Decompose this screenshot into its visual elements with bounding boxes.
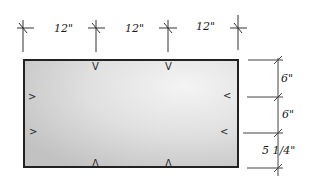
left-marker-1: >: [28, 91, 36, 102]
panel-drawing: 12" 12" 12" V V Λ Λ > > < < 6" 6" 5: [0, 0, 315, 184]
right-dimension-label-2: 6": [282, 108, 294, 121]
right-dimension-label-3: 5 1/4": [262, 144, 295, 157]
top-marker-1: V: [92, 61, 99, 72]
top-dimension-label-3: 12": [196, 20, 215, 33]
right-tick-3: [243, 129, 283, 137]
top-tick-2: [88, 20, 105, 52]
right-dimension-line: [243, 56, 283, 176]
top-dimension-label-1: 12": [54, 22, 73, 35]
top-tick-3: [159, 20, 177, 52]
bottom-marker-2: Λ: [165, 158, 172, 169]
top-tick-4: [230, 15, 247, 50]
right-marker-1: <: [223, 90, 231, 101]
right-marker-2: <: [220, 126, 228, 137]
top-tick-1: [17, 20, 34, 52]
right-dimension-label-1: 6": [281, 72, 293, 85]
top-dimension-label-2: 12": [125, 22, 144, 35]
top-marker-2: V: [165, 61, 172, 72]
panel-rectangle: [24, 60, 238, 167]
bottom-marker-1: Λ: [92, 158, 99, 169]
left-marker-2: >: [29, 126, 37, 137]
